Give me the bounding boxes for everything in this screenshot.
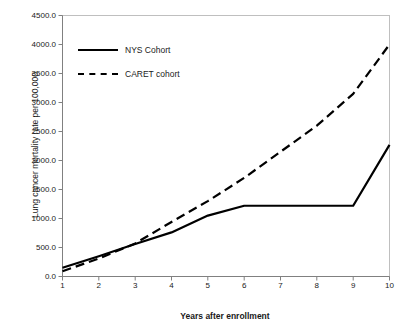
x-tick-label: 5 [198, 281, 218, 290]
legend-item-caret-cohort: CARET cohort [78, 66, 180, 82]
chart-legend: NYS Cohort CARET cohort [78, 42, 180, 82]
x-tick-label: 7 [271, 281, 291, 290]
x-tick-label: 10 [380, 281, 400, 290]
legend-label: NYS Cohort [125, 45, 170, 55]
x-tick-label: 4 [162, 281, 182, 290]
x-tick-label: 3 [125, 281, 145, 290]
legend-swatch-solid-icon [78, 49, 118, 51]
x-tick-label: 1 [53, 281, 73, 290]
legend-label: CARET cohort [125, 69, 180, 79]
x-tick-label: 9 [343, 281, 363, 290]
x-tick-label: 6 [234, 281, 254, 290]
legend-swatch-dashed-icon [78, 73, 118, 75]
legend-item-nys-cohort: NYS Cohort [78, 42, 180, 58]
lung-cancer-mortality-chart: Lung cancer mortality rate per 100,000 0… [0, 0, 403, 330]
x-tick-label: 2 [89, 281, 109, 290]
x-tick-label: 8 [307, 281, 327, 290]
x-axis-ticks [63, 277, 390, 281]
series-line-nys-cohort [63, 145, 390, 268]
y-axis-ticks [59, 16, 63, 277]
x-axis-title: Years after enrollment [60, 311, 390, 321]
